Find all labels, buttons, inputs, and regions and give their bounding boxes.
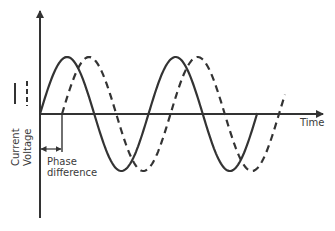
- legend-voltage-label: Voltage: [22, 128, 33, 166]
- x-axis-label: Time: [300, 117, 324, 128]
- phase-difference-diagram: [0, 0, 335, 231]
- phase-difference-label-line1: Phase: [47, 156, 97, 167]
- legend-current-label: Current: [10, 128, 21, 166]
- phase-difference-label-line2: difference: [47, 167, 97, 178]
- phase-difference-label: Phase difference: [47, 156, 97, 178]
